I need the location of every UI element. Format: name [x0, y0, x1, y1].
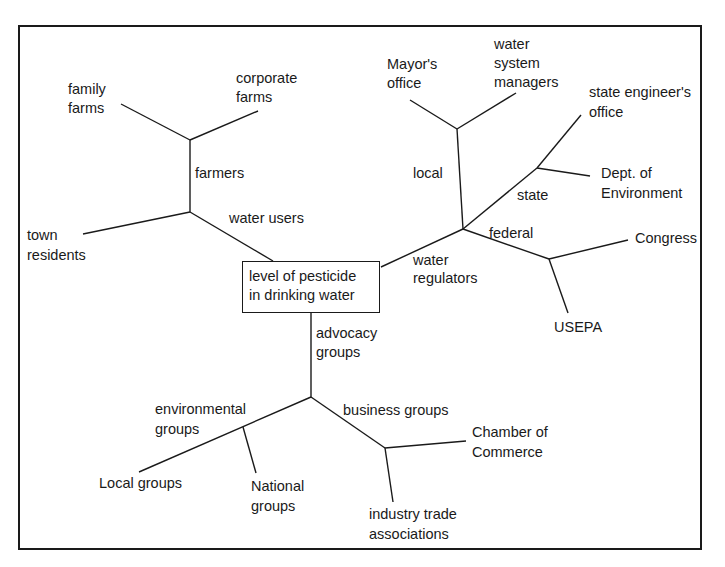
label-dept-environment-1: Dept. of: [601, 164, 652, 183]
label-water-users: water users: [229, 209, 304, 228]
label-federal: federal: [489, 224, 533, 243]
label-industry-trade-2: associations: [369, 525, 449, 544]
label-usepa: USEPA: [554, 318, 602, 337]
label-national-groups-2: groups: [251, 497, 295, 516]
label-corporate-farms-2: farms: [236, 88, 272, 107]
root-node: level of pesticide in drinking water: [242, 261, 380, 313]
label-advocacy-groups-1: advocacy: [316, 324, 377, 343]
label-environmental-groups-1: environmental: [155, 400, 246, 419]
label-congress: Congress: [635, 229, 697, 248]
label-corporate-farms-1: corporate: [236, 69, 297, 88]
label-water-system-managers-3: managers: [494, 73, 558, 92]
label-water-system-managers-2: system: [494, 54, 540, 73]
label-family-farms-2: farms: [68, 99, 104, 118]
label-business-groups: business groups: [343, 401, 449, 420]
label-town-residents-2: residents: [27, 246, 86, 265]
label-family-farms-1: family: [68, 80, 106, 99]
root-line1: level of pesticide: [249, 267, 379, 286]
label-water-system-managers-1: water: [494, 35, 529, 54]
label-industry-trade-1: industry trade: [369, 505, 457, 524]
label-farmers: farmers: [195, 164, 244, 183]
label-water-regulators-1: water: [413, 251, 448, 270]
label-mayors-office-2: office: [387, 74, 421, 93]
label-advocacy-groups-2: groups: [316, 343, 360, 362]
label-mayors-office-1: Mayor's: [387, 55, 437, 74]
label-environmental-groups-2: groups: [155, 420, 199, 439]
label-state-engineers-office-1: state engineer's: [589, 83, 691, 102]
root-line2: in drinking water: [249, 286, 379, 305]
label-chamber-1: Chamber of: [472, 423, 548, 442]
label-state-engineers-office-2: office: [589, 103, 623, 122]
label-state: state: [517, 186, 548, 205]
label-chamber-2: Commerce: [472, 443, 543, 462]
label-town-residents-1: town: [27, 226, 58, 245]
label-dept-environment-2: Environment: [601, 184, 682, 203]
label-national-groups-1: National: [251, 477, 304, 496]
label-local: local: [413, 164, 443, 183]
label-local-groups: Local groups: [99, 474, 182, 493]
label-water-regulators-2: regulators: [413, 269, 477, 288]
